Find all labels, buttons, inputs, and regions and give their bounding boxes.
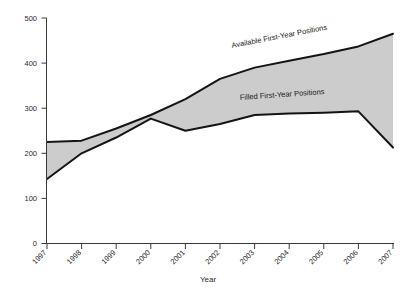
chart-container: 0100200300400500 19971998199920002001200…: [0, 0, 417, 295]
y-tick-label: 0: [33, 239, 37, 248]
plot-area: [47, 34, 393, 179]
x-tick-label: 1998: [65, 248, 83, 266]
y-axis: 0100200300400500: [24, 14, 46, 249]
x-tick-label: 2005: [307, 248, 325, 266]
x-tick-label: 2004: [272, 248, 290, 266]
x-axis-title: Year: [200, 275, 217, 284]
x-tick-label: 2006: [342, 248, 360, 266]
fill-between-band: [47, 34, 393, 179]
y-tick-label: 300: [24, 104, 37, 113]
x-tick-label: 1997: [30, 248, 48, 266]
y-tick-label: 200: [24, 149, 37, 158]
x-tick-label: 2007: [376, 248, 394, 266]
y-tick-group: 0100200300400500: [24, 14, 46, 249]
series-label-available: Available First-Year Positions: [231, 23, 328, 50]
y-tick-label: 100: [24, 194, 37, 203]
x-tick-label: 2002: [203, 248, 221, 266]
y-tick-label: 500: [24, 14, 37, 23]
area-chart: 0100200300400500 19971998199920002001200…: [0, 0, 417, 295]
x-tick-label: 2001: [169, 248, 187, 266]
x-axis: 1997199819992000200120022003200420052006…: [30, 244, 394, 285]
x-tick-group: 1997199819992000200120022003200420052006…: [30, 244, 394, 267]
x-tick-label: 1999: [99, 248, 117, 266]
x-tick-label: 2000: [134, 248, 152, 266]
y-tick-label: 400: [24, 59, 37, 68]
x-tick-label: 2003: [238, 248, 256, 266]
